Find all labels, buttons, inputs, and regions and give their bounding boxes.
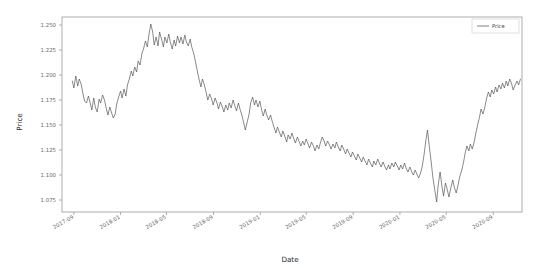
price-series-line <box>72 24 520 202</box>
x-tick-label: 2019-01 <box>238 214 261 230</box>
x-tick-label: 2020-09 <box>471 213 494 230</box>
y-tick-label: 1.150 <box>41 122 57 128</box>
y-tick-label: 1.225 <box>41 47 56 53</box>
y-axis-tick-labels: 1.0751.1001.1251.1501.1751.2001.2251.250 <box>41 22 57 203</box>
legend-label-price: Price <box>492 23 505 29</box>
x-tick-label: 2018-01 <box>99 214 122 230</box>
y-tick-label: 1.200 <box>41 72 57 78</box>
y-tick-label: 1.125 <box>41 147 56 153</box>
chart-figure: 1.0751.1001.1251.1501.1751.2001.2251.250… <box>0 0 544 268</box>
y-tick-label: 1.250 <box>41 22 57 28</box>
y-axis-title: Price <box>15 113 24 131</box>
y-tick-label: 1.075 <box>41 197 56 203</box>
price-line-chart: 1.0751.1001.1251.1501.1751.2001.2251.250… <box>0 0 544 268</box>
y-tick-label: 1.100 <box>41 172 57 178</box>
x-axis-title: Date <box>281 255 299 264</box>
x-tick-label: 2019-09 <box>331 213 354 230</box>
x-tick-label: 2020-05 <box>424 214 447 230</box>
y-axis-ticks <box>59 25 62 200</box>
x-tick-label: 2017-09 <box>52 213 75 230</box>
chart-legend[interactable]: Price <box>472 19 519 33</box>
x-axis-tick-labels: 2017-092018-012018-052018-092019-012019-… <box>52 213 494 230</box>
x-tick-label: 2018-09 <box>192 213 215 230</box>
x-axis-ticks <box>74 212 493 215</box>
x-tick-label: 2020-01 <box>378 214 401 230</box>
x-tick-label: 2018-05 <box>144 214 167 230</box>
y-tick-label: 1.175 <box>41 97 56 103</box>
x-tick-label: 2019-05 <box>284 214 307 230</box>
